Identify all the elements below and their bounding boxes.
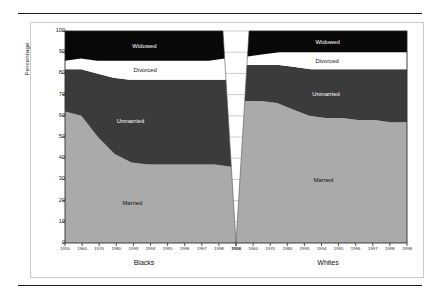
x-axis-tick-blacks-1980: 1980: [111, 247, 121, 251]
x-axis-tick-whites-1997: 1997: [368, 247, 378, 251]
band-label-widowed: Widowed: [316, 39, 340, 45]
band-label-divorced: Divorced: [134, 67, 157, 73]
panel-label-whites: Whites: [317, 259, 338, 266]
panel-label-blacks: Blacks: [134, 259, 155, 266]
band-label-unmarried: Unmarried: [117, 118, 145, 124]
x-axis-tick-blacks-1997: 1997: [197, 247, 207, 251]
x-axis-tick-whites-1970: 1970: [265, 247, 275, 251]
x-axis-tick-whites-1980: 1980: [282, 247, 292, 251]
x-axis-tick-blacks-1995: 1995: [163, 247, 173, 251]
x-axis-tick-whites-1995: 1995: [334, 247, 344, 251]
x-axis-tick-blacks-1998: 1998: [214, 247, 224, 251]
figure-page: 0102030405060708090100 Percentage Widowe…: [0, 0, 440, 296]
x-axis-tick-whites-1998: 1998: [385, 247, 395, 251]
x-axis-tick-whites-1998: 1998: [402, 247, 412, 251]
band-label-divorced: Divorced: [315, 58, 338, 64]
x-axis-tick-blacks-1950: 1950: [60, 247, 70, 251]
x-axis-tick-whites-1996: 1996: [351, 247, 361, 251]
x-axis-tick-blacks-1993: 1993: [129, 247, 139, 251]
band-label-married: Married: [122, 200, 142, 206]
band-label-unmarried: Unmarried: [312, 91, 340, 97]
x-axis-tick-whites-1994: 1994: [317, 247, 327, 251]
band-label-married: Married: [313, 177, 333, 183]
y-axis-title: Percentage: [23, 0, 30, 119]
top-rule: [18, 13, 422, 14]
x-axis-tick-whites-1960: 1960: [248, 247, 258, 251]
x-axis-tick-whites-1993: 1993: [300, 247, 310, 251]
x-axis-tick-whites-1950: 1950: [231, 247, 241, 251]
figure-frame: 0102030405060708090100 Percentage Widowe…: [30, 22, 424, 278]
x-axis-tick-blacks-1994: 1994: [146, 247, 156, 251]
x-axis-tick-blacks-1996: 1996: [180, 247, 190, 251]
bottom-rule: [18, 285, 422, 286]
band-label-widowed: Widowed: [132, 43, 156, 49]
x-axis-tick-blacks-1970: 1970: [94, 247, 104, 251]
x-axis-tick-blacks-1960: 1960: [77, 247, 87, 251]
stacked-area-chart: WidowedDivorcedUnmarriedMarriedWidowedDi…: [31, 23, 425, 279]
